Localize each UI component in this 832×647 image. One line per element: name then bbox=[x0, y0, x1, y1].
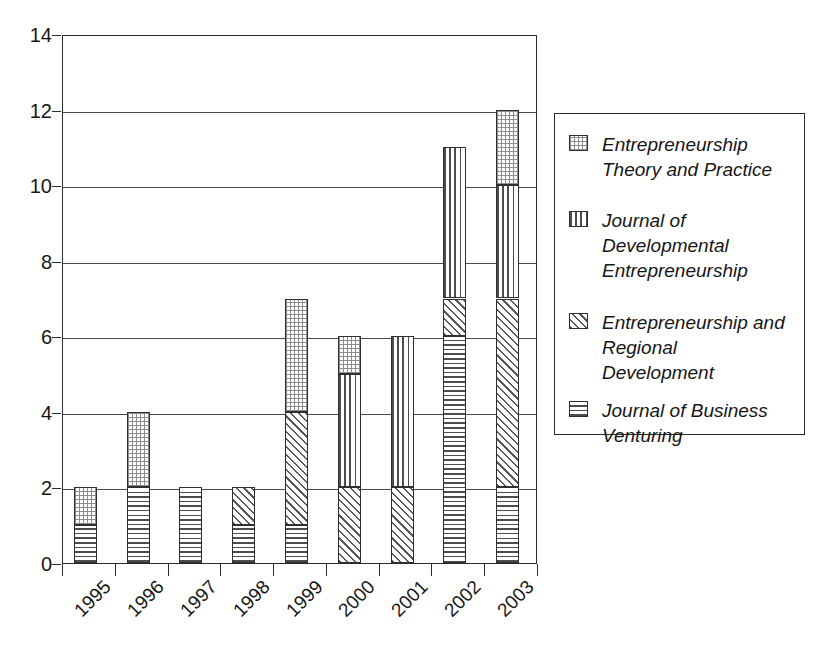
x-tick-mark bbox=[537, 564, 538, 576]
legend-label: Journal of Developmental Entrepreneurshi… bbox=[602, 208, 748, 283]
x-tick-mark bbox=[220, 564, 221, 576]
x-axis-ticks bbox=[62, 564, 537, 576]
bar-segment-2003-vertical bbox=[496, 185, 519, 298]
legend-item-3[interactable]: Entrepreneurship and Regional Developmen… bbox=[569, 310, 785, 385]
legend-swatch-vertical-icon bbox=[569, 211, 588, 227]
x-tick-mark bbox=[431, 564, 432, 576]
x-tick-mark bbox=[326, 564, 327, 576]
bar-group-2001 bbox=[391, 34, 414, 563]
bar-segment-2003-dots bbox=[496, 110, 519, 186]
bar-segment-1999-horizontal bbox=[285, 525, 308, 563]
bar-group-1995 bbox=[74, 34, 97, 563]
legend-item-4[interactable]: Journal of Business Venturing bbox=[569, 398, 768, 448]
y-tick-mark bbox=[52, 186, 61, 187]
bar-segment-1998-horizontal bbox=[232, 525, 255, 563]
x-tick-mark bbox=[273, 564, 274, 576]
y-tick-mark bbox=[52, 262, 61, 263]
y-tick-label: 8 bbox=[12, 252, 52, 272]
stacked-bar-chart: 02468101214 1995199619971998199920002001… bbox=[0, 0, 832, 647]
bar-segment-1996-horizontal bbox=[127, 487, 150, 563]
y-tick-mark bbox=[52, 488, 61, 489]
y-tick-label: 6 bbox=[12, 327, 52, 347]
x-tick-label-1998: 1998 bbox=[219, 576, 273, 630]
y-axis: 02468101214 bbox=[0, 35, 52, 564]
plot-area bbox=[62, 35, 537, 564]
bar-segment-2000-dots bbox=[338, 336, 361, 374]
x-tick-label-1999: 1999 bbox=[272, 576, 326, 630]
bar-group-1999 bbox=[285, 34, 308, 563]
bar-segment-2003-horizontal bbox=[496, 487, 519, 563]
y-tick-label: 14 bbox=[12, 25, 52, 45]
legend-label: Entrepreneurship and Regional Developmen… bbox=[602, 310, 785, 385]
y-tick-mark bbox=[52, 337, 61, 338]
x-tick-label-1995: 1995 bbox=[61, 576, 115, 630]
x-tick-label-2000: 2000 bbox=[325, 576, 379, 630]
bar-segment-1996-dots bbox=[127, 412, 150, 488]
y-tick-mark bbox=[52, 35, 61, 36]
bar-segment-1999-diagonal bbox=[285, 412, 308, 525]
bar-segment-2000-diagonal bbox=[338, 487, 361, 563]
legend-swatch-horizontal-icon bbox=[569, 401, 588, 417]
x-tick-mark bbox=[484, 564, 485, 576]
bar-segment-2002-horizontal bbox=[443, 336, 466, 563]
legend: Entrepreneurship Theory and PracticeJour… bbox=[554, 113, 805, 435]
bar-segment-1998-diagonal bbox=[232, 487, 255, 525]
y-tick-label: 10 bbox=[12, 176, 52, 196]
bar-segment-2002-vertical bbox=[443, 147, 466, 298]
x-tick-mark bbox=[379, 564, 380, 576]
bar-group-2003 bbox=[496, 34, 519, 563]
legend-swatch-dots-icon bbox=[569, 135, 588, 151]
bar-segment-1995-dots bbox=[74, 487, 97, 525]
bar-segment-2003-diagonal bbox=[496, 299, 519, 488]
bar-group-2002 bbox=[443, 34, 466, 563]
bar-segment-1995-horizontal bbox=[74, 525, 97, 563]
y-tick-label: 0 bbox=[12, 554, 52, 574]
legend-item-1[interactable]: Entrepreneurship Theory and Practice bbox=[569, 132, 772, 182]
x-tick-mark bbox=[115, 564, 116, 576]
legend-label: Journal of Business Venturing bbox=[602, 398, 768, 448]
legend-label: Entrepreneurship Theory and Practice bbox=[602, 132, 772, 182]
legend-item-2[interactable]: Journal of Developmental Entrepreneurshi… bbox=[569, 208, 748, 283]
bar-segment-1997-horizontal bbox=[179, 487, 202, 563]
bar-segment-2001-diagonal bbox=[391, 487, 414, 563]
bar-group-1998 bbox=[232, 34, 255, 563]
y-tick-label: 12 bbox=[12, 101, 52, 121]
x-tick-label-1997: 1997 bbox=[166, 576, 220, 630]
bar-group-1997 bbox=[179, 34, 202, 563]
x-tick-label-2003: 2003 bbox=[483, 576, 537, 630]
y-tick-mark bbox=[52, 413, 61, 414]
bar-group-1996 bbox=[127, 34, 150, 563]
bar-segment-2000-vertical bbox=[338, 374, 361, 487]
y-tick-mark bbox=[52, 564, 61, 565]
legend-swatch-diagonal-icon bbox=[569, 313, 588, 329]
bars-layer bbox=[63, 36, 536, 563]
bar-segment-2002-diagonal bbox=[443, 299, 466, 337]
y-tick-mark bbox=[52, 111, 61, 112]
x-tick-label-2002: 2002 bbox=[430, 576, 484, 630]
x-axis-labels: 199519961997199819992000200120022003 bbox=[62, 576, 537, 646]
bar-group-2000 bbox=[338, 34, 361, 563]
y-tick-label: 4 bbox=[12, 403, 52, 423]
x-tick-mark bbox=[62, 564, 63, 576]
x-tick-mark bbox=[168, 564, 169, 576]
y-tick-label: 2 bbox=[12, 478, 52, 498]
bar-segment-1999-dots bbox=[285, 299, 308, 412]
x-tick-label-2001: 2001 bbox=[377, 576, 431, 630]
x-tick-label-1996: 1996 bbox=[114, 576, 168, 630]
bar-segment-2001-vertical bbox=[391, 336, 414, 487]
